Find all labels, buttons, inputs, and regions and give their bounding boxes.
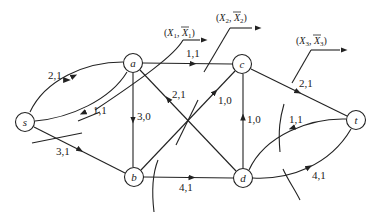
cut-line-2	[204, 28, 230, 72]
edge-label-a-c: 1,1	[186, 47, 200, 59]
edge-label-b-c: 1,0	[218, 94, 232, 106]
edge-label-t-d: 1,1	[289, 113, 303, 125]
edge-s-a	[30, 62, 123, 112]
svg-text:d: d	[240, 172, 246, 184]
nodes: s a b c d t	[16, 54, 366, 188]
node-b: b	[125, 168, 144, 187]
edge-b-d	[144, 177, 233, 178]
cut-label-2: (X2, X2)	[216, 12, 247, 25]
edge-label-b-d: 4,1	[179, 181, 193, 193]
edge-label-s-b: 3,1	[56, 145, 70, 157]
svg-text:s: s	[23, 116, 27, 128]
svg-text:b: b	[131, 171, 137, 183]
edge-label-s-a: 2,1	[48, 69, 62, 81]
edge-d-t	[253, 129, 351, 178]
edge-label-c-t: 2,1	[299, 77, 313, 89]
svg-text:c: c	[240, 58, 245, 70]
cut-label-3: (X3, X3)	[296, 35, 327, 48]
svg-text:a: a	[130, 57, 136, 69]
node-s: s	[16, 113, 35, 132]
edge-a-c	[143, 63, 232, 64]
node-a: a	[124, 54, 143, 73]
edge-t-d	[249, 119, 346, 170]
edge-label-d-a: 2,1	[172, 88, 186, 100]
cut-labels: (X1, X1) (X2, X2) (X3, X3)	[164, 12, 327, 48]
node-d: d	[234, 169, 253, 188]
node-c: c	[233, 55, 252, 74]
node-t: t	[347, 111, 366, 130]
edge-label-d-t: 4,1	[312, 169, 326, 181]
cut-line-1	[95, 40, 183, 110]
flow-network-diagram: 2,1 1,1 3,1 3,0 1,1 2,1 1,0 4,1 1,0	[0, 0, 382, 220]
cut-label-1: (X1, X1)	[164, 27, 195, 40]
edges: 2,1 1,1 3,1 3,0 1,1 2,1 1,0 4,1 1,0	[30, 47, 351, 193]
edge-label-d-c: 1,0	[247, 113, 261, 125]
edge-label-a-b: 3,0	[137, 110, 151, 122]
